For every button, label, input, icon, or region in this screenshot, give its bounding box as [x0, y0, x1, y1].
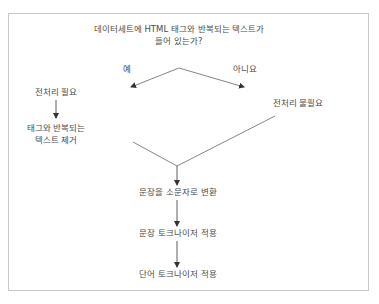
sentence-tokenizer-node: 문장 토크나이저 적용: [139, 228, 216, 239]
yes-branch-arrow: [131, 68, 179, 87]
word-tokenizer-node: 단어 토크나이저 적용: [139, 269, 216, 280]
remove-tags-node-line-2: 텍스트 제거: [35, 135, 78, 146]
yes-merge-line: [133, 142, 177, 166]
no-preprocessing-node: 전처리 불필요: [273, 98, 324, 109]
question-line-2: 들어 있는가?: [155, 36, 202, 47]
question-line-1: 데이터세트에 HTML 태그와 반복되는 텍스트가: [94, 24, 264, 35]
yes-label: 예: [123, 64, 131, 75]
no-label: 아니요: [233, 64, 257, 75]
lowercase-node: 문장을 소문자로 변환: [139, 187, 216, 198]
no-merge-line: [177, 116, 275, 166]
remove-tags-node-line-1: 태그와 반복되는: [27, 123, 86, 134]
preprocessing-needed-node: 전처리 필요: [35, 87, 78, 98]
